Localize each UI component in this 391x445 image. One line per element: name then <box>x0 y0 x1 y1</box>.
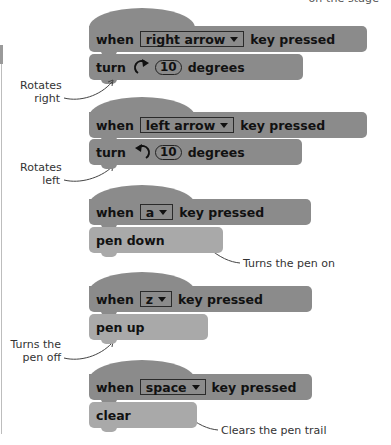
when-label: when <box>96 118 134 133</box>
key-value: a <box>146 205 154 220</box>
pen-up-block[interactable]: pen up <box>89 314 208 340</box>
annotation-turns-pen-on: Turns the pen on <box>243 257 335 270</box>
key-dropdown[interactable]: left arrow <box>140 117 234 133</box>
key-dropdown[interactable]: a <box>140 204 173 220</box>
annotation-rotates-left: Rotates left <box>20 161 60 187</box>
dropdown-caret-icon <box>192 385 200 390</box>
dropdown-caret-icon <box>220 123 228 128</box>
turn-label: turn <box>96 145 126 160</box>
when-label: when <box>96 292 134 307</box>
degrees-input[interactable]: 10 <box>155 145 182 160</box>
pen-up-label: pen up <box>96 320 145 335</box>
key-value: left arrow <box>146 118 215 133</box>
annotation-turns-pen-off: Turns the pen off <box>6 338 61 364</box>
key-pressed-label: key pressed <box>212 380 297 395</box>
when-key-pressed-block[interactable]: when left arrow key pressed <box>89 112 367 138</box>
dropdown-caret-icon <box>158 297 166 302</box>
key-pressed-label: key pressed <box>178 292 263 307</box>
pen-down-block[interactable]: pen down <box>89 227 223 253</box>
key-dropdown[interactable]: space <box>140 379 206 395</box>
rotate-counterclockwise-icon <box>132 143 152 161</box>
dropdown-caret-icon <box>159 210 167 215</box>
key-value: z <box>146 292 153 307</box>
clear-block[interactable]: clear <box>89 402 197 428</box>
when-label: when <box>96 205 134 220</box>
key-pressed-label: key pressed <box>179 205 264 220</box>
annotation-clears-pen-trail: Clears the pen trail <box>221 424 326 437</box>
degrees-label: degrees <box>188 145 245 160</box>
key-value: space <box>146 380 187 395</box>
key-dropdown[interactable]: z <box>140 291 172 307</box>
when-key-pressed-block[interactable]: when a key pressed <box>89 199 311 225</box>
when-label: when <box>96 380 134 395</box>
turn-block[interactable]: turn 10 degrees <box>89 139 302 165</box>
pen-down-label: pen down <box>96 233 165 248</box>
when-key-pressed-block[interactable]: when space key pressed <box>89 374 312 400</box>
when-key-pressed-block[interactable]: when z key pressed <box>89 286 312 312</box>
clear-label: clear <box>96 408 131 423</box>
key-pressed-label: key pressed <box>240 118 325 133</box>
